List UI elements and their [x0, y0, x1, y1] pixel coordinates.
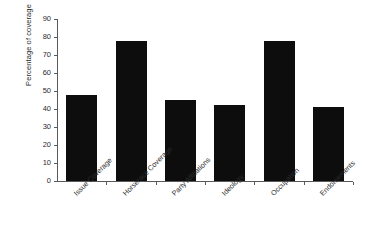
y-axis-tick: 30	[23, 122, 57, 132]
y-axis-tick-mark	[54, 73, 57, 74]
y-axis-tick-label: 10	[43, 158, 51, 168]
x-axis-tick-mark	[254, 182, 255, 185]
y-axis-tick-mark	[54, 163, 57, 164]
y-axis-tick: 60	[23, 68, 57, 78]
bar	[116, 41, 147, 181]
x-axis-tick-mark	[156, 182, 157, 185]
y-axis-tick: 70	[23, 50, 57, 60]
y-axis-tick: 50	[23, 86, 57, 96]
y-axis-tick: 0	[23, 176, 57, 186]
y-axis-tick-label: 90	[43, 14, 51, 24]
bar	[214, 105, 245, 181]
x-axis-tick-mark	[205, 182, 206, 185]
x-axis-tick-mark	[106, 182, 107, 185]
plot-area: 0102030405060708090 Issue CoverageHorser…	[57, 19, 353, 182]
y-axis-tick-mark	[54, 145, 57, 146]
y-axis-line	[57, 19, 58, 182]
y-axis-tick: 90	[23, 14, 57, 24]
y-axis-tick: 40	[23, 104, 57, 114]
y-axis-tick-mark	[54, 91, 57, 92]
y-axis-tick-label: 80	[43, 32, 51, 42]
bar-chart: Percentage of coverage 01020304050607080…	[0, 0, 374, 252]
y-axis-tick-mark	[54, 127, 57, 128]
y-axis-tick: 80	[23, 32, 57, 42]
y-axis-tick-mark	[54, 37, 57, 38]
y-axis-tick-mark	[54, 55, 57, 56]
y-axis-tick-label: 40	[43, 104, 51, 114]
y-axis-tick-mark	[54, 181, 57, 182]
y-axis-tick: 20	[23, 140, 57, 150]
x-axis-tick-mark	[353, 182, 354, 185]
x-axis-tick-mark	[304, 182, 305, 185]
y-axis-tick: 10	[23, 158, 57, 168]
y-axis-tick-label: 30	[43, 122, 51, 132]
y-axis-tick-label: 0	[47, 176, 51, 186]
y-axis-tick-label: 50	[43, 86, 51, 96]
bar	[264, 41, 295, 181]
y-axis-tick-label: 20	[43, 140, 51, 150]
bar	[66, 95, 97, 181]
y-axis-tick-mark	[54, 19, 57, 20]
y-axis-tick-label: 60	[43, 68, 51, 78]
y-axis-tick-label: 70	[43, 50, 51, 60]
y-axis-tick-mark	[54, 109, 57, 110]
